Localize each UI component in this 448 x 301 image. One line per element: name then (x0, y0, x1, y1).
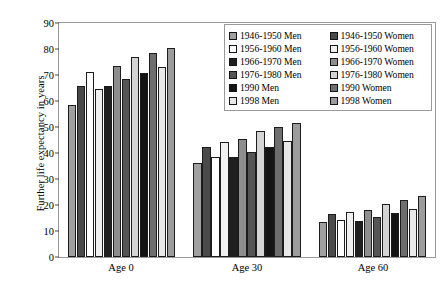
legend-label: 1946-1950 Women (341, 31, 414, 41)
bar (346, 212, 354, 257)
legend-swatch-icon (330, 45, 338, 53)
bar (364, 210, 372, 257)
bar (131, 57, 139, 257)
legend-swatch-icon (330, 58, 338, 66)
bar (265, 147, 273, 258)
bar (158, 67, 166, 257)
legend-item: 1990 Women (330, 81, 429, 94)
bar (409, 209, 417, 257)
bar (355, 221, 363, 257)
legend-swatch-icon (229, 58, 237, 66)
bar (149, 53, 157, 257)
bar (337, 220, 345, 257)
legend-item: 1976-1980 Men (229, 68, 328, 81)
legend-swatch-icon (330, 71, 338, 79)
legend-item: 1998 Men (229, 94, 328, 107)
bar (373, 217, 381, 257)
bar (256, 131, 264, 257)
legend-item: 1946-1950 Men (229, 29, 328, 42)
bar (86, 72, 94, 257)
bar (202, 147, 210, 257)
bar (211, 157, 219, 257)
legend-swatch-icon (229, 97, 237, 105)
bar (283, 141, 291, 257)
bar (391, 213, 399, 257)
x-axis-label: Age 0 (58, 262, 184, 273)
legend-item: 1966-1970 Women (330, 55, 429, 68)
bar (292, 123, 300, 257)
bar (122, 79, 130, 257)
x-axis-label: Age 30 (184, 262, 310, 273)
legend-label: 1956-1960 Men (240, 44, 302, 54)
bar (77, 86, 85, 257)
chart-legend: 1946-1950 Men1946-1950 Women1956-1960 Me… (224, 24, 432, 111)
legend-item: 1946-1950 Women (330, 29, 429, 42)
legend-label: 1976-1980 Men (240, 70, 302, 80)
legend-item: 1990 Men (229, 81, 328, 94)
legend-label: 1998 Women (341, 96, 392, 106)
x-axis-label: Age 60 (310, 262, 436, 273)
legend-swatch-icon (330, 84, 338, 92)
legend-swatch-icon (330, 32, 338, 40)
legend-item: 1998 Women (330, 94, 429, 107)
bar (220, 142, 228, 257)
bar (319, 222, 327, 257)
legend-swatch-icon (229, 32, 237, 40)
legend-label: 1966-1970 Men (240, 57, 302, 67)
legend-label: 1990 Women (341, 83, 392, 93)
bar (382, 204, 390, 257)
bar (229, 157, 237, 257)
x-axis-labels: Age 0Age 30Age 60 (58, 262, 436, 273)
legend-label: 1990 Men (240, 83, 279, 93)
bar (400, 200, 408, 257)
legend-swatch-icon (330, 97, 338, 105)
bar (247, 152, 255, 257)
bar (167, 48, 175, 257)
legend-item: 1976-1980 Women (330, 68, 429, 81)
legend-item: 1956-1960 Women (330, 42, 429, 55)
bar (95, 89, 103, 257)
bar (328, 214, 336, 257)
bar (104, 86, 112, 257)
bar (193, 163, 201, 257)
legend-swatch-icon (229, 45, 237, 53)
legend-label: 1956-1960 Women (341, 44, 414, 54)
bar (113, 66, 121, 257)
legend-swatch-icon (229, 84, 237, 92)
legend-label: 1946-1950 Men (240, 31, 302, 41)
legend-label: 1976-1980 Women (341, 70, 414, 80)
bar-chart: Further life expectancy in years 0102030… (0, 0, 448, 301)
legend-label: 1966-1970 Women (341, 57, 414, 67)
legend-item: 1966-1970 Men (229, 55, 328, 68)
bar-group (59, 23, 184, 257)
bar (238, 139, 246, 257)
bar (68, 105, 76, 257)
legend-label: 1998 Men (240, 96, 279, 106)
bar (274, 127, 282, 257)
legend-swatch-icon (229, 71, 237, 79)
bar (140, 73, 148, 257)
legend-item: 1956-1960 Men (229, 42, 328, 55)
bar (418, 196, 426, 257)
